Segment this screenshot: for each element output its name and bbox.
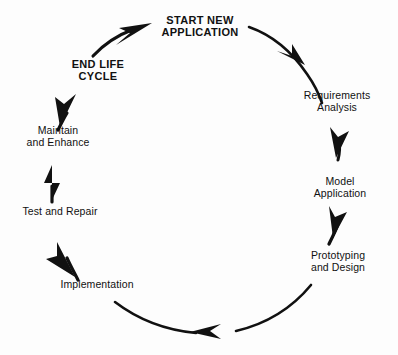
stage-label-start-new-application: START NEW APPLICATION xyxy=(142,14,258,39)
stage-label-requirements-analysis: Requirements Analysis xyxy=(289,90,385,114)
arrow-requirements-to-model xyxy=(330,127,349,160)
stage-label-model-application: Model Application xyxy=(294,176,386,200)
arrow-model-to-prototyping xyxy=(329,206,347,244)
arrow-test-to-maintain xyxy=(44,165,60,202)
stage-label-prototyping-and-design: Prototyping and Design xyxy=(288,250,388,274)
lifecycle-diagram: START NEW APPLICATION Requirements Analy… xyxy=(0,0,398,355)
arrow-prototyping-to-implementation xyxy=(115,285,311,339)
arrow-implementation-to-test xyxy=(46,242,78,280)
stage-label-maintain-and-enhance: Maintain and Enhance xyxy=(10,125,106,149)
stage-label-end-life-cycle: END LIFE CYCLE xyxy=(48,58,148,83)
stage-label-test-and-repair: Test and Repair xyxy=(6,206,114,218)
stage-label-implementation: Implementation xyxy=(38,279,156,291)
